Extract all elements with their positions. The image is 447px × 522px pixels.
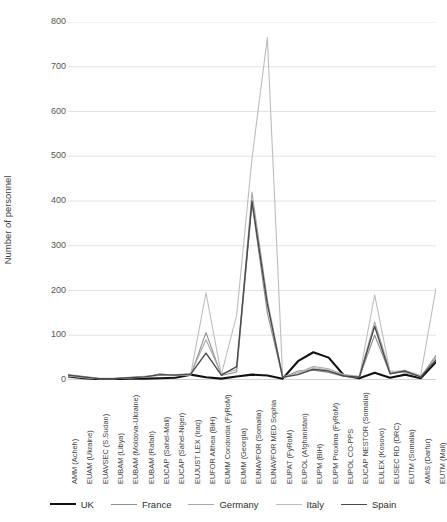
x-tick-label: EUCAP (Sahel-Mali) bbox=[163, 417, 171, 484]
x-tick-label: AMIS (Darfur) bbox=[424, 438, 432, 484]
legend-label: UK bbox=[81, 499, 94, 510]
legend-label: France bbox=[142, 499, 172, 510]
y-tick-label: 300 bbox=[22, 241, 66, 250]
x-tick-label: EUBAM (Rafah) bbox=[148, 431, 156, 484]
series-line bbox=[68, 352, 436, 379]
chart-legend: UKFranceGermanyItalySpain bbox=[0, 494, 446, 514]
y-tick-label: 700 bbox=[22, 62, 66, 71]
legend-line-icon bbox=[276, 504, 302, 505]
y-tick-label: 600 bbox=[22, 107, 66, 116]
series-line bbox=[68, 201, 436, 379]
plot-area bbox=[68, 22, 436, 380]
legend-label: Spain bbox=[372, 499, 396, 510]
x-tick-label: EUFOR Althea (BiH) bbox=[209, 417, 217, 484]
x-tick-label: EUMM (Georgia) bbox=[240, 428, 248, 484]
legend-item[interactable]: UK bbox=[50, 499, 94, 510]
legend-item[interactable]: Spain bbox=[341, 499, 396, 510]
x-tick-label: EUPAT (FyRoM) bbox=[286, 430, 294, 484]
x-tick-label: EUNAVFOR MED Sophia bbox=[270, 400, 278, 484]
x-tick-label: EUAVSEC (S.Sudan) bbox=[102, 414, 110, 484]
y-tick-label: 800 bbox=[22, 17, 66, 26]
y-tick-label: 0 bbox=[22, 375, 66, 384]
x-tick-label: EUNAVFOR (Somalia) bbox=[255, 410, 263, 484]
y-tick-label: 500 bbox=[22, 151, 66, 160]
legend-line-icon bbox=[188, 504, 214, 505]
x-axis-labels: AMM (Acheh)EUAM (Ukraine)EUAVSEC (S.Suda… bbox=[68, 384, 436, 488]
x-tick-label: EUCAP NESTOR (Somalia) bbox=[362, 392, 370, 484]
x-tick-label: EUMM Condordia (FyRoM) bbox=[224, 394, 232, 484]
legend-label: Germany bbox=[219, 499, 258, 510]
x-tick-label: EUTM (Somalia) bbox=[408, 429, 416, 484]
legend-item[interactable]: Italy bbox=[276, 499, 324, 510]
x-tick-label: EUTM (Mali) bbox=[439, 443, 447, 484]
x-tick-label: EUPM (BiH) bbox=[316, 444, 324, 484]
chart-canvas bbox=[68, 22, 436, 380]
legend-line-icon bbox=[111, 504, 137, 505]
x-tick-label: EUPOL CO-PPS bbox=[347, 429, 355, 484]
y-tick-label: 100 bbox=[22, 330, 66, 339]
x-tick-label: EUCAP (Sahel-Niger) bbox=[178, 413, 186, 484]
x-tick-label: EUSEC RD (DRC) bbox=[393, 423, 401, 484]
legend-line-icon bbox=[50, 503, 76, 505]
x-tick-label: EUPM Proxima (FyRoM) bbox=[332, 403, 340, 484]
x-tick-label: EUPOL (Afghanistan) bbox=[301, 413, 309, 484]
x-tick-label: AMM (Acheh) bbox=[71, 439, 79, 484]
x-tick-label: EUAM (Ukraine) bbox=[86, 430, 94, 484]
y-tick-label: 400 bbox=[22, 196, 66, 205]
legend-item[interactable]: Germany bbox=[188, 499, 258, 510]
x-tick-label: EUJUST LEX (Iraq) bbox=[194, 420, 202, 484]
legend-item[interactable]: France bbox=[111, 499, 172, 510]
y-axis-ticks: 0100200300400500600700800 bbox=[0, 0, 66, 400]
legend-line-icon bbox=[341, 504, 367, 505]
legend-label: Italy bbox=[307, 499, 324, 510]
x-tick-label: EUBAM (Libya) bbox=[117, 433, 125, 484]
x-tick-label: EUBAM (Moldova-Ukraine) bbox=[132, 395, 140, 484]
y-tick-label: 200 bbox=[22, 286, 66, 295]
x-tick-label: EULEX (Kosovo) bbox=[378, 428, 386, 484]
